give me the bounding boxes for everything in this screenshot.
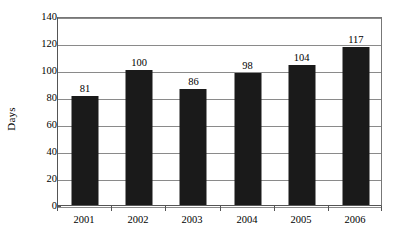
bar[interactable] [234, 73, 261, 205]
x-tick-mark [274, 206, 275, 211]
bar[interactable] [288, 65, 315, 205]
bar-slot: 100 [112, 18, 166, 205]
y-tick-label: 80 [27, 93, 57, 103]
bar-slot: 81 [58, 18, 112, 205]
bar-value-label: 104 [294, 52, 310, 63]
bar-slot: 98 [221, 18, 275, 205]
y-tick-label: 60 [27, 120, 57, 130]
y-tick-label: 0 [27, 201, 57, 211]
bar[interactable] [126, 70, 153, 205]
x-tick-label: 2003 [182, 214, 203, 226]
bar[interactable] [342, 47, 369, 205]
x-tick-mark [111, 206, 112, 211]
bar-slot: 104 [275, 18, 329, 205]
x-tick-mark [220, 206, 221, 211]
bar-value-label: 117 [348, 34, 363, 45]
x-tick-label: 2004 [237, 214, 258, 226]
bar-slot: 86 [166, 18, 220, 205]
y-axis-title-label: Days [5, 107, 17, 130]
bar-chart: Days 020406080100120140 811008698104117 … [0, 0, 404, 237]
bars-layer: 811008698104117 [58, 18, 381, 205]
plot-area: 811008698104117 [57, 17, 382, 206]
x-tick-mark [57, 206, 58, 211]
bar-value-label: 81 [80, 83, 91, 94]
x-tick-label: 2001 [74, 214, 95, 226]
x-tick-mark [381, 206, 382, 211]
y-tick-label: 140 [27, 12, 57, 22]
x-tick-mark [165, 206, 166, 211]
bar[interactable] [180, 89, 207, 205]
y-tick-label: 100 [27, 66, 57, 76]
x-axis: 200120022003200420052006 [57, 206, 382, 237]
bar-slot: 117 [329, 18, 383, 205]
y-tick-label: 20 [27, 174, 57, 184]
y-tick-label: 40 [27, 147, 57, 157]
x-tick-label: 2002 [128, 214, 149, 226]
bar[interactable] [72, 96, 99, 205]
x-tick-label: 2005 [291, 214, 312, 226]
x-tick-label: 2006 [345, 214, 366, 226]
bar-value-label: 100 [131, 57, 147, 68]
bar-value-label: 98 [242, 60, 253, 71]
y-axis-ticks: 020406080100120140 [20, 17, 57, 206]
bar-value-label: 86 [188, 76, 199, 87]
x-tick-mark [328, 206, 329, 211]
y-tick-label: 120 [27, 39, 57, 49]
y-axis-title: Days [2, 0, 20, 237]
